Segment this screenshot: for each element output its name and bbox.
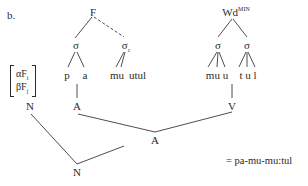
foot-node-f: F xyxy=(90,7,96,18)
segment-a: a xyxy=(83,70,88,81)
segment-mu: mu xyxy=(110,70,124,81)
segments-tul: t u l xyxy=(239,70,256,81)
node-v-right: V xyxy=(228,101,236,112)
node-a-left: A xyxy=(73,101,81,112)
syllable-node-wd-right: σ xyxy=(244,40,250,51)
node-n-bottom: N xyxy=(73,167,81,178)
syllable-node-c: σc xyxy=(122,40,131,51)
node-n-left: N xyxy=(26,101,34,112)
segment-p: p xyxy=(64,70,70,81)
feature-row-beta: βFj xyxy=(16,82,28,92)
example-label: b. xyxy=(7,10,15,21)
syllable-node-left: σ xyxy=(73,40,79,51)
result-form: = pa-mu-mu:tul xyxy=(226,155,292,166)
feature-matrix: αFi βFj xyxy=(10,65,36,95)
segments-muu: mu u xyxy=(206,70,228,81)
segment-utul: utul xyxy=(129,70,146,81)
node-a-center: A xyxy=(151,135,159,146)
syllable-node-wd-left: σ xyxy=(215,40,221,51)
matrix-right-bracket xyxy=(32,65,36,97)
minimal-word-node: WdMIN xyxy=(222,7,250,18)
matrix-left-bracket xyxy=(10,65,14,97)
feature-row-alpha: αFi xyxy=(16,69,28,79)
